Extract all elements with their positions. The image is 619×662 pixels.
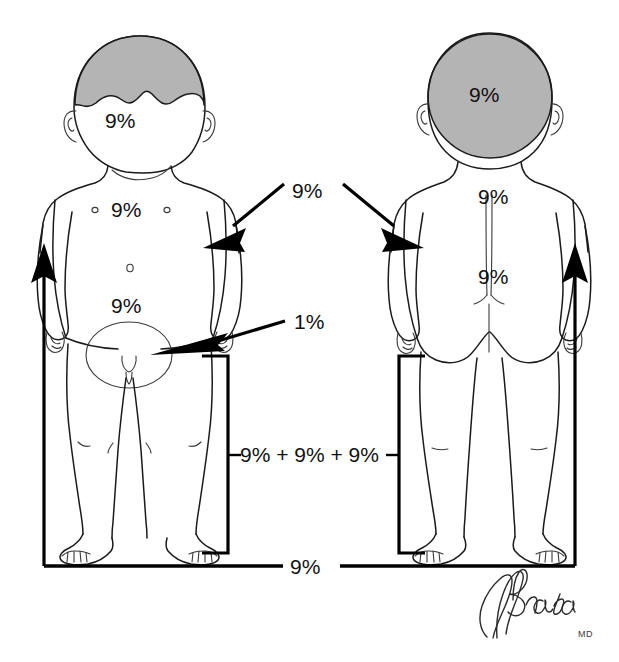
signature-stroke-b — [497, 571, 523, 638]
anterior-right-knee — [189, 442, 201, 446]
signature-stroke-a3 — [562, 601, 575, 614]
artist-signature — [480, 570, 575, 638]
posterior-child-figure — [388, 33, 591, 565]
anterior-head-percent-label: 9% — [105, 110, 135, 131]
anterior-left-ear-inner — [68, 118, 74, 131]
anterior-right-nipple — [164, 207, 170, 212]
arms-percent-label: 9% — [292, 180, 322, 201]
anterior-abdomen-percent-label: 9% — [111, 295, 141, 316]
genitalia-highlight-oval — [86, 322, 172, 388]
anterior-left-knee — [78, 442, 90, 446]
posterior-right-toes — [536, 551, 564, 562]
signature-credential: MD — [578, 629, 593, 639]
legs-left-bracket — [202, 356, 241, 553]
anterior-left-leg — [67, 344, 126, 538]
genitalia-percent-label: 1% — [294, 311, 324, 332]
posterior-right-ear-inner — [553, 111, 559, 124]
anterior-left-nipple — [92, 207, 98, 212]
posterior-lower-back-percent-label: 9% — [478, 266, 508, 287]
genitalia-annotation-arrow — [150, 321, 285, 355]
posterior-sacrum-fork — [474, 295, 504, 304]
posterior-right-knee-crease — [531, 448, 547, 450]
posterior-upper-back-percent-label: 9% — [478, 186, 508, 207]
posterior-left-ear — [417, 104, 429, 135]
anterior-right-knee-inner — [146, 443, 151, 453]
arms-arrow-right-head — [381, 228, 424, 252]
legs-right-bracket-path — [399, 356, 425, 553]
posterior-left-ear-inner — [421, 111, 427, 124]
arms-arrow-right-shaft — [343, 184, 394, 226]
posterior-left-leg — [420, 352, 477, 537]
anterior-chest-percent-label: 9% — [111, 199, 141, 220]
arms-arrow-left-shaft — [233, 184, 284, 226]
total-body-percent-label: 9% — [290, 556, 320, 577]
posterior-head-percent-label: 9% — [469, 84, 499, 105]
legs-sum-label: 9% + 9% + 9% — [240, 444, 379, 465]
legs-left-bracket-path — [202, 356, 228, 553]
signature-stroke-r — [526, 597, 537, 613]
anterior-left-knee-inner — [108, 443, 113, 453]
posterior-right-leg — [502, 352, 559, 537]
posterior-left-knee-crease — [432, 448, 448, 450]
anterior-right-ear-inner — [205, 118, 211, 131]
anterior-left-toes — [62, 551, 90, 562]
rule-of-nines-diagram: 9% 9% 9% 9% 9% 9% 9% 1% 9% + 9% + 9% 9% … — [0, 0, 619, 662]
total-body-bracket — [31, 243, 588, 566]
anterior-hair-shading — [75, 36, 204, 106]
anterior-right-leg — [133, 344, 212, 538]
anterior-navel — [127, 264, 133, 272]
posterior-right-ear — [551, 104, 563, 135]
genitalia-detail — [122, 356, 136, 384]
genitalia-arrow-head — [150, 333, 228, 355]
genitalia-arrow-shaft — [218, 321, 285, 341]
